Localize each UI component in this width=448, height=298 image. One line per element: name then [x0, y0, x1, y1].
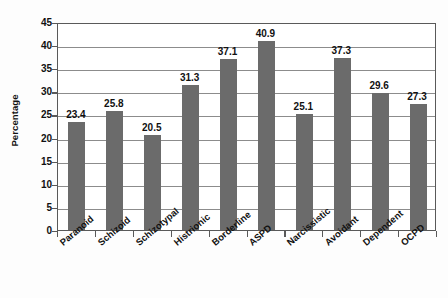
y-axis-tick-label: 45 — [12, 18, 52, 28]
y-axis-tick-label: 20 — [12, 134, 52, 144]
y-axis-tick-label: 10 — [12, 180, 52, 190]
bar-value-label: 25.1 — [283, 102, 323, 112]
bar-value-label: 37.3 — [321, 46, 361, 56]
bar — [296, 114, 313, 230]
x-axis-tick-mark — [209, 231, 210, 237]
x-axis-tick-mark — [57, 231, 58, 237]
x-axis-tick-mark — [95, 231, 96, 237]
x-axis-tick-mark — [133, 231, 134, 237]
y-axis-tick-label: 25 — [12, 110, 52, 120]
bar-value-label: 23.4 — [56, 110, 96, 120]
x-axis-tick-mark — [247, 231, 248, 237]
bar — [144, 135, 161, 230]
x-axis-tick-mark — [322, 231, 323, 237]
x-axis-tick-mark — [398, 231, 399, 237]
bar-value-label: 25.8 — [94, 99, 134, 109]
bar — [182, 85, 199, 230]
bar — [410, 104, 427, 230]
x-axis-tick-mark — [436, 231, 437, 237]
x-axis-tick-mark — [284, 231, 285, 237]
y-axis-tick-label: 35 — [12, 64, 52, 74]
bar — [334, 58, 351, 230]
bar-value-label: 29.6 — [359, 81, 399, 91]
bar-value-label: 40.9 — [245, 29, 285, 39]
y-axis-tick-label: 30 — [12, 87, 52, 97]
bar-chart: Percentage 051015202530354045 23.425.820… — [0, 0, 448, 298]
bar — [220, 59, 237, 230]
bar — [106, 111, 123, 230]
y-axis-tick-label: 5 — [12, 203, 52, 213]
y-axis-tick-label: 15 — [12, 157, 52, 167]
x-axis-tick-mark — [171, 231, 172, 237]
bar — [258, 41, 275, 230]
bar-value-label: 20.5 — [132, 123, 172, 133]
bar-value-label: 27.3 — [397, 92, 437, 102]
y-axis-tick-label: 0 — [12, 226, 52, 236]
gridline — [58, 70, 435, 71]
bar — [68, 122, 85, 230]
bar — [372, 93, 389, 230]
bar-value-label: 37.1 — [208, 47, 248, 57]
y-axis-tick-label: 40 — [12, 41, 52, 51]
x-axis-tick-mark — [360, 231, 361, 237]
bar-value-label: 31.3 — [170, 73, 210, 83]
